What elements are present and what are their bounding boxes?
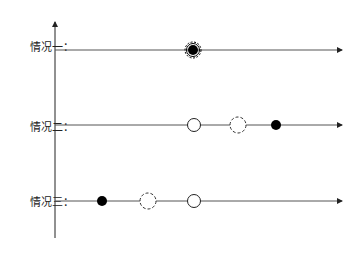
diagram-canvas <box>0 0 354 258</box>
open-circle <box>188 119 201 132</box>
filled-circle <box>188 45 198 55</box>
dashed-circle <box>140 193 156 209</box>
filled-circle <box>97 196 107 206</box>
filled-circle <box>271 120 281 130</box>
dashed-circle <box>230 117 246 133</box>
open-circle <box>188 195 201 208</box>
